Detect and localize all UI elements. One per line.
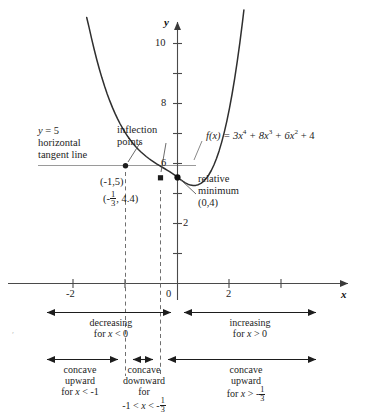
inflection-point-marker-b [158, 175, 163, 180]
cd-4: -1 < x < -13 [104, 398, 184, 415]
ipb-close: , 4.4) [116, 193, 138, 204]
ipb-denominator: 3 [110, 198, 116, 208]
scan-artifact-top [285, 1, 287, 11]
relmin-text-1: relative [198, 173, 239, 185]
function-label-suffix: + 4 [298, 130, 314, 141]
decreasing-label: decreasing for x < 0 [66, 317, 156, 339]
relative-minimum-marker [174, 174, 180, 180]
x-tick-0: 0 [166, 288, 171, 299]
scan-artifact-left: ′ [12, 330, 14, 340]
calculus-graph-figure [0, 0, 370, 418]
inflection-point-marker-a [123, 163, 128, 168]
cu-right-2: upward [198, 375, 294, 386]
function-label-prefix: f(x) = 3x [206, 130, 243, 141]
cu-right-fraction: 13 [259, 386, 265, 403]
cd-fraction: 13 [160, 397, 166, 414]
inflection-point-a-label: (-1,5) [100, 176, 124, 188]
x-tick-2: 2 [226, 288, 231, 299]
function-label-mid2: + 6x [272, 130, 294, 141]
cu-right-3: for x > -13 [198, 386, 294, 403]
ipb-numerator: 1 [110, 190, 116, 199]
increasing-label: increasing for x > 0 [205, 317, 295, 339]
decreasing-text-1: decreasing [66, 317, 156, 328]
leader-relative-min [181, 180, 196, 194]
tangent-line-text-3: tangent line [38, 149, 87, 161]
relmin-text-3: (0,4) [198, 197, 239, 209]
y-axis [173, 22, 182, 300]
x-axis-label: x [341, 288, 347, 300]
inflection-text-1: inflection [117, 124, 157, 136]
function-label: f(x) = 3x4 + 8x3 + 6x2 + 4 [206, 128, 314, 141]
y-axis-label: y [164, 16, 169, 28]
inflection-point-b-label: (-13, 4.4) [103, 190, 138, 208]
cd-1: concave [104, 364, 184, 375]
relmin-text-2: minimum [198, 185, 239, 197]
concave-downward-label: concave downward for -1 < x < -13 [104, 364, 184, 415]
cd-3: for [104, 386, 184, 397]
ipb-fraction: 13 [110, 190, 116, 208]
function-label-mid1: + 8x [246, 130, 268, 141]
cd-2: downward [104, 375, 184, 386]
y-tick-10: 10 [155, 37, 166, 48]
relative-minimum-annotation: relative minimum (0,4) [198, 173, 239, 208]
x-tick-neg2: -2 [66, 288, 75, 299]
concave-upward-right-label: concave upward for x > -13 [198, 364, 294, 404]
ipb-open: (- [103, 193, 110, 204]
increasing-text-2: for x > 0 [205, 328, 295, 339]
inflection-points-annotation: inflection points [117, 124, 157, 148]
cu-right-1: concave [198, 364, 294, 375]
y-tick-8: 8 [161, 97, 166, 108]
y-tick-6: 6 [161, 157, 166, 168]
decreasing-text-2: for x < 0 [66, 328, 156, 339]
leader-function-label [194, 141, 202, 160]
tangent-line-text-2: horizontal [38, 137, 87, 149]
inflection-text-2: points [117, 136, 157, 148]
y-tick-2: 2 [183, 217, 188, 228]
increasing-text-1: increasing [205, 317, 295, 328]
tangent-line-annotation: y = 5 horizontal tangent line [38, 125, 87, 160]
